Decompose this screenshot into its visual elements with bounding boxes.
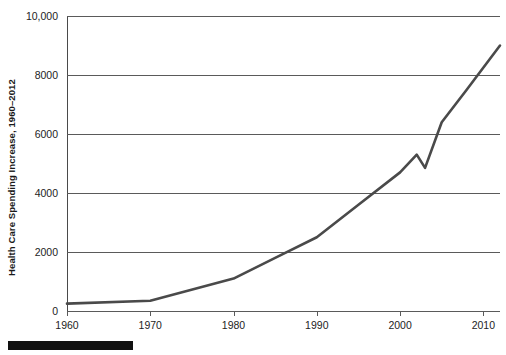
x-tick-mark-2000 xyxy=(400,311,401,316)
x-tick-label-1990: 1990 xyxy=(294,320,340,331)
x-tick-label-1960: 1960 xyxy=(44,320,90,331)
x-tick-label-1970: 1970 xyxy=(127,320,173,331)
x-tick-label-2000: 2000 xyxy=(377,320,423,331)
y-tick-label-0: 0 xyxy=(2,306,58,317)
bottom-black-bar xyxy=(8,341,133,350)
x-tick-mark-1990 xyxy=(317,311,318,316)
x-tick-mark-1980 xyxy=(234,311,235,316)
x-tick-mark-2010 xyxy=(483,311,484,316)
y-tick-label-10000: 10,000 xyxy=(2,11,58,22)
x-tick-label-1980: 1980 xyxy=(211,320,257,331)
x-tick-label-2010: 2010 xyxy=(460,320,506,331)
y-tick-label-4000: 4000 xyxy=(2,188,58,199)
y-tick-label-2000: 2000 xyxy=(2,247,58,258)
x-tick-mark-1970 xyxy=(150,311,151,316)
y-tick-label-6000: 6000 xyxy=(2,129,58,140)
y-tick-label-8000: 8000 xyxy=(2,70,58,81)
x-tick-mark-1960 xyxy=(67,311,68,316)
chart-figure: Health Care Spending Increase, 1960–2012… xyxy=(0,0,506,355)
tick-layer: 10,0008000600040002000019601970198019902… xyxy=(0,0,506,355)
